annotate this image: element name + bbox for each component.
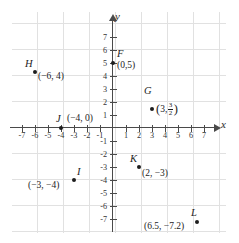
x-tick-label--2: -2 [84, 131, 91, 140]
y-tick--3 [110, 167, 117, 168]
y-tick-label-5: 5 [103, 59, 107, 68]
y-tick-1 [110, 115, 117, 116]
y-tick-label--7: -7 [100, 215, 107, 224]
x-tick-label-3: 3 [150, 131, 154, 140]
y-tick--6 [110, 206, 117, 207]
y-tick-7 [110, 37, 117, 38]
y-tick-label-4: 4 [103, 72, 107, 81]
point-dot-G [150, 107, 154, 111]
y-tick-label-2: 2 [103, 98, 107, 107]
point-coord-L: (6.5, −7.2) [144, 221, 184, 231]
fraction-denominator: 2 [168, 109, 174, 117]
x-axis-arrow-icon [214, 124, 221, 132]
paren-close: ) [174, 102, 178, 116]
y-tick--5 [110, 193, 117, 194]
x-tick-label-5: 5 [176, 131, 180, 140]
point-coord-I: (−3, −4) [28, 180, 59, 190]
y-tick-label--1: -1 [100, 137, 107, 146]
point-coord-J: (−4, 0) [67, 113, 93, 123]
y-tick--1 [110, 141, 117, 142]
y-tick-label--2: -2 [100, 150, 107, 159]
y-tick-label-6: 6 [103, 46, 107, 55]
y-tick-4 [110, 76, 117, 77]
point-coord-G: (3,32) [156, 102, 178, 117]
point-label-K: K [130, 153, 137, 164]
point-dot-K [137, 165, 141, 169]
coordinate-plane: x y -7-6-5-4-3-2-112345677654321-1-2-3-4… [0, 0, 239, 243]
fraction-three-halves: 32 [168, 102, 174, 117]
y-tick-label-7: 7 [103, 33, 107, 42]
x-tick-label-7: 7 [202, 131, 206, 140]
x-tick-label--5: -5 [45, 131, 52, 140]
y-axis-line [112, 20, 113, 232]
y-axis-label: y [115, 10, 120, 22]
y-tick-2 [110, 102, 117, 103]
x-tick-label-6: 6 [189, 131, 193, 140]
y-tick--7 [110, 219, 117, 220]
x-tick-label--4: -4 [58, 131, 65, 140]
point-label-I: I [77, 166, 81, 177]
y-tick-label--3: -3 [100, 163, 107, 172]
x-tick-label--7: -7 [19, 131, 26, 140]
point-dot-J [59, 126, 63, 130]
x-tick-label-4: 4 [163, 131, 167, 140]
fraction-numerator: 3 [168, 102, 174, 109]
grid-background [12, 12, 226, 233]
point-label-L: L [191, 207, 197, 218]
y-tick-label--5: -5 [100, 189, 107, 198]
point-label-F: F [117, 48, 123, 59]
y-tick-label--6: -6 [100, 202, 107, 211]
y-tick-label-3: 3 [103, 85, 107, 94]
point-label-G: G [144, 85, 152, 96]
point-dot-L [195, 220, 199, 224]
x-tick-label-1: 1 [124, 131, 128, 140]
x-tick-label--6: -6 [32, 131, 39, 140]
x-tick-label-2: 2 [137, 131, 141, 140]
point-coord-F: (0,5) [117, 60, 135, 70]
point-coord-K: (2, −3) [142, 168, 168, 178]
point-dot-H [33, 70, 37, 74]
point-coord-H: (−6, 4) [38, 71, 64, 81]
point-coord-G-x: 3, [160, 104, 167, 114]
y-tick--4 [110, 180, 117, 181]
x-axis-label: x [221, 118, 226, 130]
y-tick-label-1: 1 [103, 111, 107, 120]
point-dot-F [111, 61, 115, 65]
point-dot-I [72, 178, 76, 182]
point-label-J: J [56, 113, 61, 124]
point-label-H: H [25, 58, 33, 69]
y-tick-3 [110, 89, 117, 90]
x-tick-label--3: -3 [71, 131, 78, 140]
y-tick-label--4: -4 [100, 176, 107, 185]
y-tick-6 [110, 50, 117, 51]
y-tick--2 [110, 154, 117, 155]
